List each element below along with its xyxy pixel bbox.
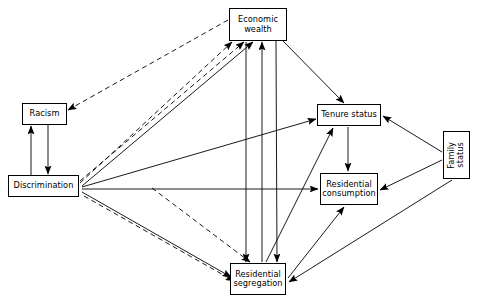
edge-layer [0, 0, 478, 301]
edge-segregation-consumption [288, 207, 344, 278]
edge-disc-tenure [82, 119, 316, 187]
node-label: Discrimination [12, 181, 76, 190]
edges-group [31, 20, 452, 282]
node-residential-segregation[interactable]: Residential segregation [230, 263, 286, 295]
node-label: Tenure status [319, 110, 379, 119]
edge-disc-wealth-dash-b [80, 42, 244, 181]
path-diagram: Economic wealth Racism Discrimination Te… [0, 0, 478, 301]
node-label: Residential segregation [231, 270, 284, 288]
node-label: Racism [28, 109, 62, 118]
edge-family-tenure [383, 116, 442, 152]
node-residential-consumption[interactable]: Residential consumption [320, 173, 378, 205]
node-label: Family status [447, 140, 465, 171]
edge-disc-wealth-solid [82, 42, 253, 186]
node-label: Residential consumption [320, 180, 378, 198]
node-economic-wealth[interactable]: Economic wealth [229, 8, 287, 41]
node-tenure-status[interactable]: Tenure status [317, 104, 381, 126]
edge-wealth-racism [68, 20, 228, 110]
edge-wealth-segregation-dash [152, 188, 250, 262]
node-discrimination[interactable]: Discrimination [8, 175, 79, 197]
edge-disc-segregation-solid [82, 192, 231, 277]
edge-family-consumption [380, 160, 442, 190]
edge-wealth-tenure [283, 41, 344, 103]
node-racism[interactable]: Racism [22, 103, 67, 125]
node-family-status[interactable]: Family status [443, 131, 470, 179]
node-label: Economic wealth [236, 15, 280, 33]
edge-disc-segregation-dash [84, 196, 234, 281]
edge-wealth-segregation-diag [276, 41, 277, 262]
